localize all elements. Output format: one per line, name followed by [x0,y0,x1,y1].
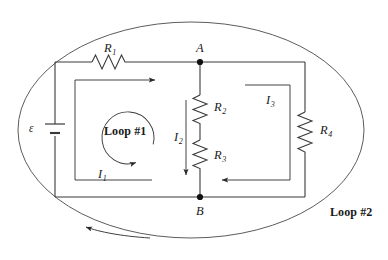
main-circuit-wires [55,62,305,197]
current-I1-label: I1 [98,168,106,181]
node-B-junction-dot [197,194,203,200]
resistor-R4-label: R4 [320,124,332,137]
battery-emf-symbol [45,124,65,133]
node-B-label: B [196,205,204,218]
circuit-diagram: R1 R2 R3 R4 ε A B I1 I2 I3 Loop #1 Loop … [0,0,388,260]
node-A-junction-dot [197,59,203,65]
resistor-R1-symbol [92,55,127,69]
resistor-R4-symbol [298,112,312,160]
loop2-ellipse-path [18,22,364,238]
resistor-R3-label: R3 [214,149,226,162]
loop2-label: Loop #2 [330,206,372,218]
loop2-direction-arrow [86,227,150,238]
resistor-R1-label: R1 [104,42,116,55]
current-I2-label: I2 [174,131,182,144]
resistor-R2-label: R2 [214,101,226,114]
current-I3-label: I3 [266,94,274,107]
current-I3-path [222,85,290,180]
node-A-label: A [196,42,204,55]
resistor-R2-symbol [193,95,207,125]
emf-source-label: ε [29,123,34,135]
loop1-label: Loop #1 [104,125,146,137]
resistor-R3-symbol [193,140,207,172]
